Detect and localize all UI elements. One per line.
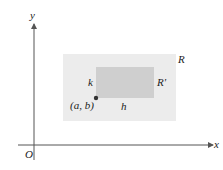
point-a-b-label: (a, b) [70,100,94,111]
diagram-canvas [0,0,223,170]
inner-region-R-prime [96,67,154,98]
region-R-prime-label: R' [157,77,166,88]
y-axis-label: y [30,10,35,21]
origin-label: O [25,149,33,160]
width-h-label: h [121,101,127,112]
point-a-b [94,96,98,100]
region-R-label: R [178,54,185,65]
x-axis-label: x [214,139,219,150]
height-k-label: k [88,77,93,88]
